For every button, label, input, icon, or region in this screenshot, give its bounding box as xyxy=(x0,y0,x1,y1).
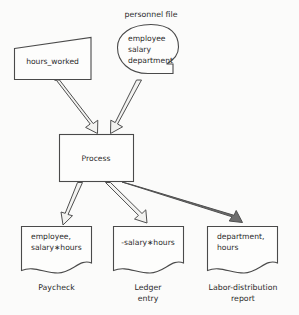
ledger-entry-shape[interactable] xyxy=(114,227,184,274)
flow-personnel-file-to-process xyxy=(111,80,142,134)
diagram-canvas xyxy=(0,0,299,315)
dataflow-diagram: personnel file employee salary departmen… xyxy=(0,0,299,315)
labor-distribution-report-shape[interactable] xyxy=(208,227,278,274)
flow-process-to-ledger-entry xyxy=(106,183,148,224)
flow-hours-worked-to-process xyxy=(55,80,98,134)
process-shape[interactable] xyxy=(60,135,134,182)
personnel-file-shape[interactable] xyxy=(118,25,179,74)
hours-worked-shape[interactable] xyxy=(15,38,92,80)
paycheck-shape[interactable] xyxy=(22,227,92,274)
flow-process-to-paycheck xyxy=(61,183,83,226)
